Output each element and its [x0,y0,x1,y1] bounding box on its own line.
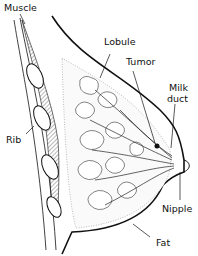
label-nipple: Nipple [162,204,192,214]
label-muscle: Muscle [4,3,37,13]
tumor-mass [155,144,160,149]
label-milk-duct-line2: duct [167,94,188,104]
label-rib: Rib [6,135,21,145]
breast-anatomy-diagram [0,0,198,256]
label-tumor: Tumor [126,57,155,67]
label-milk-duct-line1: Milk [169,83,188,93]
rib-4 [44,194,64,219]
label-lobule: Lobule [104,37,135,47]
label-fat: Fat [156,238,170,248]
